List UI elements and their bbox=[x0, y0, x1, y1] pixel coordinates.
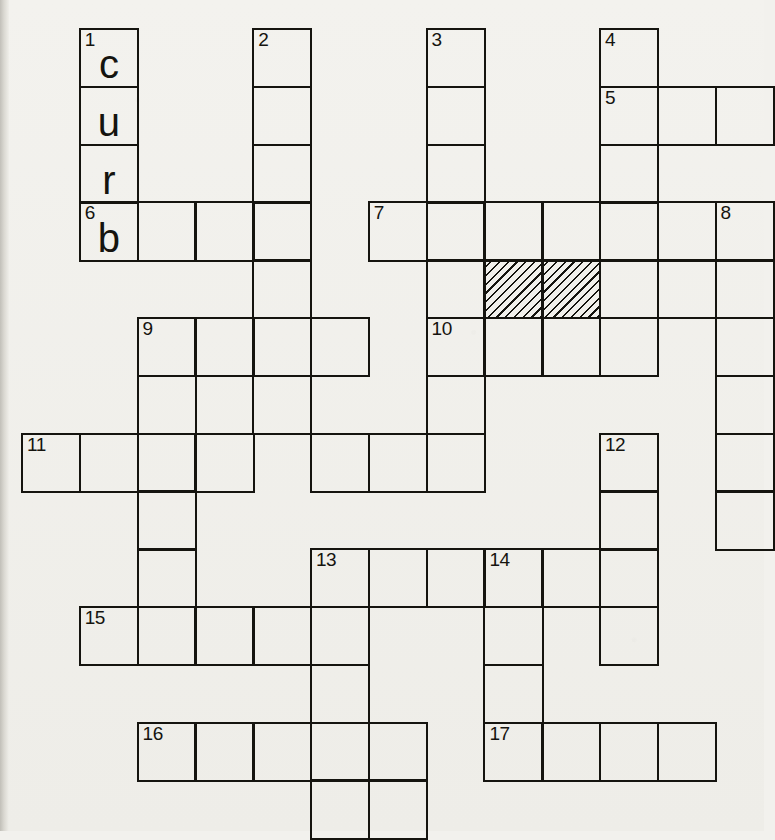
crossword-cell-r10-c1[interactable]: 15 bbox=[79, 606, 139, 666]
clue-number-10: 10 bbox=[432, 319, 452, 338]
crossword-cell-r6-c4[interactable] bbox=[252, 375, 312, 435]
crossword-cell-r0-c7[interactable]: 3 bbox=[426, 28, 486, 88]
crossword-cell-r1-c4[interactable] bbox=[252, 86, 312, 146]
crossword-cell-r10-c8[interactable] bbox=[483, 606, 543, 666]
crossword-cell-r12-c2[interactable]: 16 bbox=[137, 722, 197, 782]
crossword-cell-r12-c9[interactable] bbox=[541, 722, 601, 782]
crossword-cell-r5-c2[interactable]: 9 bbox=[137, 317, 197, 377]
crossword-cell-r9-c10[interactable] bbox=[599, 548, 659, 608]
crossword-cell-r5-c10[interactable] bbox=[599, 317, 659, 377]
clue-number-2: 2 bbox=[258, 30, 268, 49]
crossword-cell-r1-c10[interactable]: 5 bbox=[599, 86, 659, 146]
crossword-cell-r1-c11[interactable] bbox=[657, 86, 717, 146]
crossword-cell-r4-c11[interactable] bbox=[657, 259, 717, 319]
cell-letter: u bbox=[81, 102, 137, 142]
crossword-cell-r12-c11[interactable] bbox=[657, 722, 717, 782]
crossword-cell-r12-c10[interactable] bbox=[599, 722, 659, 782]
crossword-cell-r0-c1[interactable]: 1c bbox=[79, 28, 139, 88]
crossword-cell-r4-c7[interactable] bbox=[426, 259, 486, 319]
crossword-cell-r7-c5[interactable] bbox=[310, 433, 370, 493]
crossword-cell-r11-c8[interactable] bbox=[483, 664, 543, 724]
clue-number-15: 15 bbox=[85, 608, 105, 627]
crossword-cell-r7-c0[interactable]: 11 bbox=[21, 433, 81, 493]
crossword-cell-r9-c8[interactable]: 14 bbox=[483, 548, 543, 608]
crossword-cell-r12-c4[interactable] bbox=[252, 722, 312, 782]
crossword-cell-r6-c7[interactable] bbox=[426, 375, 486, 435]
crossword-cell-r11-c5[interactable] bbox=[310, 664, 370, 724]
crossword-cell-r6-c12[interactable] bbox=[715, 375, 775, 435]
crossword-cell-r4-c9[interactable] bbox=[541, 259, 601, 319]
crossword-cell-r13-c5[interactable] bbox=[310, 779, 370, 839]
crossword-cell-r8-c12[interactable] bbox=[715, 490, 775, 550]
crossword-cell-r7-c1[interactable] bbox=[79, 433, 139, 493]
crossword-cell-r1-c12[interactable] bbox=[715, 86, 775, 146]
crossword-cell-r10-c5[interactable] bbox=[310, 606, 370, 666]
crossword-cell-r7-c2[interactable] bbox=[137, 433, 197, 493]
crossword-cell-r0-c10[interactable]: 4 bbox=[599, 28, 659, 88]
crossword-cell-r3-c3[interactable] bbox=[194, 201, 254, 261]
crossword-cell-r9-c9[interactable] bbox=[541, 548, 601, 608]
crossword-cell-r3-c8[interactable] bbox=[483, 201, 543, 261]
crossword-cell-r3-c12[interactable]: 8 bbox=[715, 201, 775, 261]
crossword-cell-r5-c12[interactable] bbox=[715, 317, 775, 377]
crossword-cell-r4-c8[interactable] bbox=[483, 259, 543, 319]
crossword-cell-r2-c4[interactable] bbox=[252, 144, 312, 204]
crossword-cell-r9-c7[interactable] bbox=[426, 548, 486, 608]
crossword-cell-r3-c10[interactable] bbox=[599, 201, 659, 261]
crossword-cell-r12-c8[interactable]: 17 bbox=[483, 722, 543, 782]
crossword-cell-r9-c6[interactable] bbox=[368, 548, 428, 608]
crossword-cell-r9-c5[interactable]: 13 bbox=[310, 548, 370, 608]
crossword-cell-r4-c10[interactable] bbox=[599, 259, 659, 319]
crossword-cell-r5-c9[interactable] bbox=[541, 317, 601, 377]
crossword-cell-r8-c2[interactable] bbox=[137, 490, 197, 550]
crossword-cell-r5-c5[interactable] bbox=[310, 317, 370, 377]
crossword-cell-r7-c7[interactable] bbox=[426, 433, 486, 493]
crossword-cell-r3-c11[interactable] bbox=[657, 201, 717, 261]
crossword-cell-r1-c1[interactable]: u bbox=[79, 86, 139, 146]
crossword-cell-r3-c7[interactable] bbox=[426, 201, 486, 261]
crossword-cell-r5-c3[interactable] bbox=[194, 317, 254, 377]
clue-number-8: 8 bbox=[721, 203, 731, 222]
crossword-cell-r2-c7[interactable] bbox=[426, 144, 486, 204]
crossword-cell-r2-c10[interactable] bbox=[599, 144, 659, 204]
clue-number-12: 12 bbox=[605, 435, 625, 454]
crossword-cell-r1-c7[interactable] bbox=[426, 86, 486, 146]
crossword-cell-r10-c4[interactable] bbox=[252, 606, 312, 666]
crossword-cell-r9-c2[interactable] bbox=[137, 548, 197, 608]
crossword-cell-r4-c12[interactable] bbox=[715, 259, 775, 319]
crossword-cell-r3-c4[interactable] bbox=[252, 201, 312, 261]
crossword-cell-r5-c8[interactable] bbox=[483, 317, 543, 377]
clue-number-13: 13 bbox=[316, 550, 336, 569]
crossword-cell-r5-c4[interactable] bbox=[252, 317, 312, 377]
crossword-cell-r12-c3[interactable] bbox=[194, 722, 254, 782]
crossword-cell-r0-c4[interactable]: 2 bbox=[252, 28, 312, 88]
cell-letter: b bbox=[81, 218, 137, 258]
crossword-cell-r3-c9[interactable] bbox=[541, 201, 601, 261]
crossword-cell-r5-c7[interactable]: 10 bbox=[426, 317, 486, 377]
crossword-cell-r2-c1[interactable]: r bbox=[79, 144, 139, 204]
cell-letter: r bbox=[81, 160, 137, 200]
crossword-cell-r3-c2[interactable] bbox=[137, 201, 197, 261]
clue-number-11: 11 bbox=[27, 435, 46, 454]
crossword-cell-r3-c6[interactable]: 7 bbox=[368, 201, 428, 261]
crossword-cell-r4-c4[interactable] bbox=[252, 259, 312, 319]
clue-number-17: 17 bbox=[489, 724, 509, 743]
crossword-cell-r10-c3[interactable] bbox=[194, 606, 254, 666]
crossword-cell-r8-c10[interactable] bbox=[599, 490, 659, 550]
clue-number-5: 5 bbox=[605, 88, 615, 107]
crossword-cell-r7-c6[interactable] bbox=[368, 433, 428, 493]
crossword-cell-r10-c2[interactable] bbox=[137, 606, 197, 666]
crossword-cell-r7-c3[interactable] bbox=[194, 433, 254, 493]
crossword-cell-r10-c10[interactable] bbox=[599, 606, 659, 666]
crossword-cell-r7-c10[interactable]: 12 bbox=[599, 433, 659, 493]
crossword-cell-r7-c12[interactable] bbox=[715, 433, 775, 493]
crossword-cell-r13-c6[interactable] bbox=[368, 779, 428, 839]
clue-number-7: 7 bbox=[374, 203, 384, 222]
crossword-cell-r6-c2[interactable] bbox=[137, 375, 197, 435]
clue-number-4: 4 bbox=[605, 30, 615, 49]
crossword-cell-r12-c6[interactable] bbox=[368, 722, 428, 782]
crossword-cell-r12-c5[interactable] bbox=[310, 722, 370, 782]
crossword-cell-r3-c1[interactable]: 6b bbox=[79, 201, 139, 261]
clue-number-16: 16 bbox=[143, 724, 163, 743]
